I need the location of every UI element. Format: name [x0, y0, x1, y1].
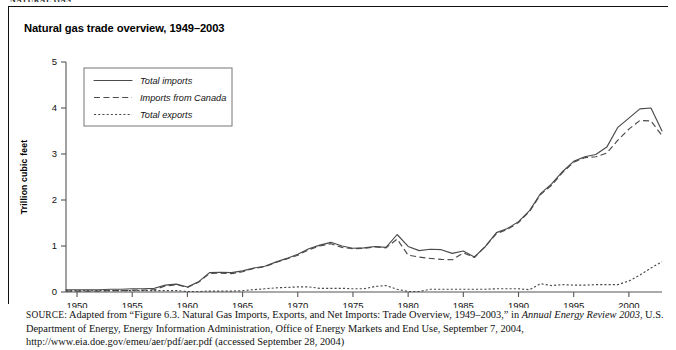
- series-line-total-exports: [66, 262, 662, 292]
- x-tick-label: 1960: [177, 300, 198, 309]
- x-tick-label: 1995: [563, 300, 584, 309]
- chart-series: [66, 108, 662, 292]
- legend-label: Imports from Canada: [140, 93, 226, 103]
- source-italic-title: Annual Energy Review 2003: [522, 309, 640, 320]
- legend-label: Total imports: [140, 76, 193, 86]
- x-tick-label: 1985: [453, 300, 474, 309]
- series-line-total-imports: [66, 108, 662, 290]
- source-label: SOURCE:: [26, 310, 67, 320]
- running-head: NATURAL GAS: [10, 0, 71, 2]
- source-note: SOURCE: Adapted from “Figure 6.3. Natura…: [26, 308, 666, 349]
- figure-page: NATURAL GAS Natural gas trade overview, …: [0, 0, 676, 350]
- x-tick-label: 2000: [618, 300, 639, 309]
- series-line-imports-from-canada: [66, 120, 662, 291]
- y-tick-label: 1: [52, 240, 57, 251]
- x-tick-label: 1980: [398, 300, 419, 309]
- source-text-part-1: Adapted from “Figure 6.3. Natural Gas Im…: [67, 309, 522, 320]
- x-tick-label: 1975: [342, 300, 363, 309]
- y-tick-label: 3: [52, 148, 57, 159]
- x-tick-label: 1965: [232, 300, 253, 309]
- y-axis-title: Trillion cubic feet: [19, 140, 29, 214]
- x-tick-label: 1990: [508, 300, 529, 309]
- x-tick-label: 1955: [122, 300, 143, 309]
- x-tick-label: 1950: [66, 300, 87, 309]
- y-tick-label: 5: [52, 56, 57, 67]
- legend-label: Total exports: [140, 110, 193, 120]
- chart-legend: Total importsImports from CanadaTotal ex…: [84, 68, 232, 126]
- y-tick-label: 2: [52, 194, 57, 205]
- natural-gas-trade-line-chart: 0123451950195519601965197019751980198519…: [0, 46, 676, 308]
- chart-plot-area: 0123451950195519601965197019751980198519…: [0, 46, 676, 308]
- y-tick-label: 0: [52, 286, 57, 297]
- y-tick-label: 4: [52, 102, 57, 113]
- figure-title: Natural gas trade overview, 1949–2003: [24, 22, 225, 34]
- x-tick-label: 1970: [287, 300, 308, 309]
